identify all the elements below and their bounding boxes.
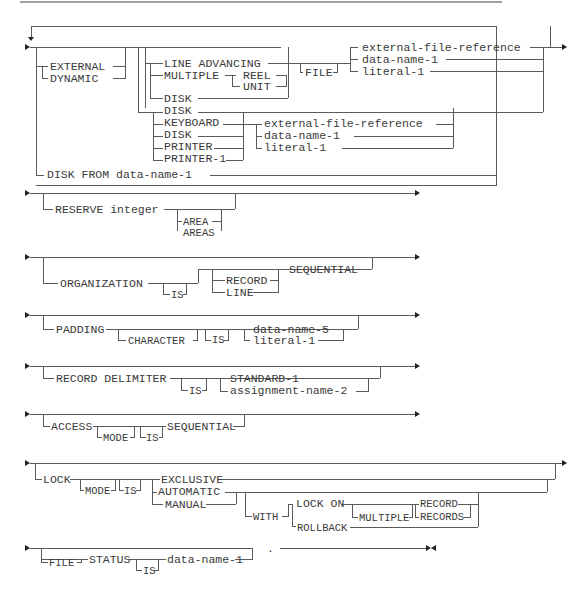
kw-file: FILE bbox=[305, 66, 333, 79]
access-clause: ACCESS MODE IS SEQUENTIAL bbox=[25, 411, 420, 444]
start-arrow-icon bbox=[25, 545, 30, 551]
literal-1b: literal-1 bbox=[264, 141, 326, 154]
end-arrow-icon bbox=[415, 312, 420, 318]
literal-1: literal-1 bbox=[253, 334, 315, 347]
kw-lock: LOCK bbox=[43, 473, 71, 486]
loop-arrow-icon bbox=[28, 37, 34, 41]
record-delimiter-clause: RECORD DELIMITER IS STANDARD-1 assignmen… bbox=[25, 363, 420, 397]
start-arrow-icon bbox=[25, 44, 30, 50]
kw-printer-1: PRINTER-1 bbox=[164, 152, 226, 165]
kw-automatic: AUTOMATIC bbox=[158, 485, 220, 498]
kw-record: RECORD bbox=[420, 498, 458, 510]
end-arrow-icon bbox=[562, 44, 567, 50]
start-arrow-icon bbox=[25, 363, 30, 369]
start-arrow-icon bbox=[25, 312, 30, 318]
kw-disk-from: DISK FROM data-name-1 bbox=[47, 168, 192, 181]
kw-is: IS bbox=[124, 485, 137, 497]
kw-dynamic: DYNAMIC bbox=[50, 72, 98, 85]
assign-clause: EXTERNAL DYNAMIC LINE ADVANCING MULTIPLE… bbox=[25, 26, 567, 185]
kw-is: IS bbox=[143, 565, 156, 577]
kw-record-delimiter: RECORD DELIMITER bbox=[56, 372, 167, 385]
lock-clause: LOCK MODE IS EXCLUSIVE AUTOMATIC MANUAL … bbox=[25, 460, 567, 534]
literal-1a: literal-1 bbox=[362, 65, 424, 78]
kw-is: IS bbox=[171, 289, 184, 301]
syntax-diagram: EXTERNAL DYNAMIC LINE ADVANCING MULTIPLE… bbox=[0, 0, 587, 608]
kw-sequential: SEQUENTIAL bbox=[167, 420, 236, 433]
start-arrow-icon bbox=[25, 460, 30, 466]
organization-clause: ORGANIZATION IS RECORD LINE SEQUENTIAL bbox=[25, 254, 420, 301]
end-arrow-icon bbox=[426, 545, 431, 551]
kw-is: IS bbox=[189, 385, 202, 397]
kw-character: CHARACTER bbox=[128, 335, 185, 347]
end-arrow-icon bbox=[415, 254, 420, 260]
kw-is: IS bbox=[212, 334, 225, 346]
end-arrow-icon bbox=[415, 363, 420, 369]
kw-multiple: MULTIPLE bbox=[359, 512, 409, 524]
kw-padding: PADDING bbox=[56, 323, 104, 336]
kw-records: RECORDS bbox=[420, 511, 464, 523]
file-status-clause: FILE STATUS IS data-name-1 . bbox=[25, 542, 436, 577]
kw-multiple: MULTIPLE bbox=[164, 69, 219, 82]
kw-is: IS bbox=[146, 432, 159, 444]
kw-status: STATUS bbox=[89, 553, 131, 566]
kw-file: FILE bbox=[49, 557, 74, 569]
kw-lock-on: LOCK ON bbox=[296, 497, 344, 510]
start-arrow-icon bbox=[25, 190, 30, 196]
padding-clause: PADDING CHARACTER IS data-name-5 literal… bbox=[25, 312, 420, 347]
end-arrow-icon bbox=[415, 190, 420, 196]
kw-areas: AREAS bbox=[183, 227, 215, 239]
kw-reserve-integer: RESERVE integer bbox=[55, 203, 159, 216]
kw-line: LINE bbox=[226, 286, 254, 299]
terminator-icon bbox=[431, 545, 436, 551]
kw-with: WITH bbox=[253, 511, 278, 523]
kw-organization: ORGANIZATION bbox=[60, 277, 143, 290]
period: . bbox=[267, 542, 274, 555]
reserve-clause: RESERVE integer AREA AREAS bbox=[25, 190, 420, 239]
kw-mode: MODE bbox=[85, 485, 110, 497]
end-arrow-icon bbox=[415, 411, 420, 417]
kw-unit: UNIT bbox=[243, 80, 271, 93]
kw-mode: MODE bbox=[103, 432, 128, 444]
data-name-1: data-name-1 bbox=[167, 553, 243, 566]
assignment-name-2: assignment-name-2 bbox=[230, 384, 347, 397]
kw-sequential: SEQUENTIAL bbox=[289, 263, 358, 276]
end-arrow-icon bbox=[562, 460, 567, 466]
kw-rollback: ROLLBACK bbox=[297, 522, 348, 534]
kw-access: ACCESS bbox=[51, 420, 93, 433]
start-arrow-icon bbox=[25, 411, 30, 417]
start-arrow-icon bbox=[25, 254, 30, 260]
kw-manual: MANUAL bbox=[165, 498, 207, 511]
